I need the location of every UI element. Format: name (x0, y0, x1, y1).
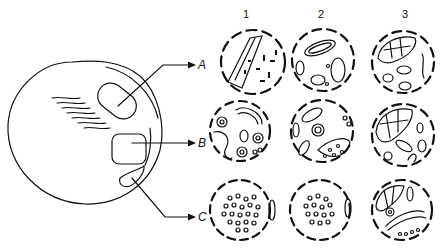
panel-c1 (210, 180, 275, 240)
region-a-outline (92, 78, 141, 124)
region-label-c: C (198, 211, 207, 223)
panel-c2 (290, 180, 351, 240)
panel-a3 (372, 31, 434, 93)
panel-b3 (372, 104, 434, 166)
panel-a2 (292, 29, 354, 91)
column-label-1: 1 (243, 9, 249, 20)
panel-b1 (210, 101, 270, 161)
panel-c3 (372, 180, 432, 240)
region-b-outline (112, 134, 146, 164)
region-label-a: A (198, 59, 206, 71)
organ-outline (8, 61, 162, 204)
arrow-b (132, 140, 196, 147)
arrow-c (132, 178, 196, 221)
panel-a1 (221, 30, 285, 94)
column-label-3: 3 (402, 9, 408, 20)
diagram-canvas (0, 0, 442, 252)
panel-b2 (291, 100, 353, 162)
region-label-b: B (198, 137, 206, 149)
column-label-2: 2 (318, 9, 324, 20)
arrow-a (118, 62, 196, 107)
